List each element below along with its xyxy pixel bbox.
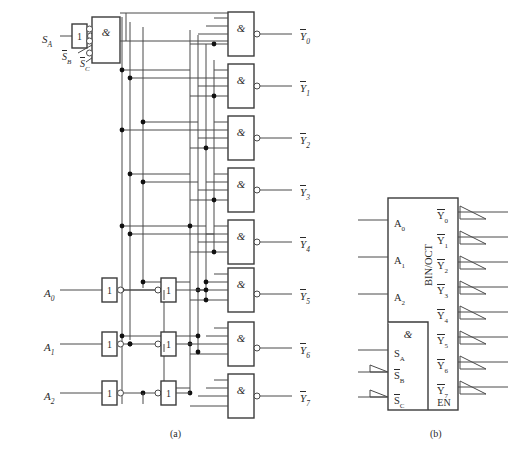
label-sa: SA [42,29,52,49]
inverter-a2-symbol: 1 [166,388,171,399]
label-a2: A2 [44,386,54,406]
nand-gate-3-bubble [254,187,260,193]
block-label-sc-bar: SC [394,390,405,410]
inverter-a1-symbol: 1 [166,339,171,350]
nand-gate-7-bubble [254,393,260,399]
label-sb-bar: SB [62,46,71,66]
nand-gate-5-bubble [254,291,260,297]
inverter-a1-bubble [155,341,161,347]
diagram-a: 1 & [60,12,292,418]
block-label-y5-bar: Y5 [437,330,448,350]
label-sc-bar: SC [80,53,90,73]
nand-gate-7 [228,374,254,418]
buffer-a1-bubble [118,341,124,347]
nand-gate-2-symbol: & [237,126,246,138]
label-y4-bar: Y4 [300,234,310,254]
label-y6-bar: Y6 [300,340,310,360]
label-a1: A1 [44,337,54,357]
inverter-a0-symbol: 1 [166,285,171,296]
label-y5-bar: Y5 [300,286,310,306]
control-nand-bubble-2 [87,38,93,44]
nand-gate-0-symbol: & [237,22,246,34]
label-y7-bar: Y7 [300,388,310,408]
sb-bar-triangle-icon [370,365,388,372]
buffer-a1-symbol: 1 [107,339,112,350]
enable-bus [120,13,228,41]
block-label-sa: SA [394,343,405,363]
label-y2-bar: Y2 [300,130,310,150]
buffer-a0-bubble [118,287,124,293]
nand-gate-6-symbol: & [237,332,246,344]
nand-gate-0 [228,12,254,56]
label-a0: A0 [44,283,54,303]
block-label-y6-bar: Y6 [437,355,448,375]
control-nand-gate [92,17,120,63]
block-label-y4-bar: Y4 [437,305,448,325]
input-inversion-triangles [370,365,388,397]
inverter-a0-bubble [155,287,161,293]
figure-canvas: 1 & [0,0,519,455]
nand-gate-3-symbol: & [237,178,246,190]
nand-gate-5-symbol: & [237,278,246,290]
nand-gate-6-bubble [254,345,260,351]
block-label-y7-bar: Y7 [437,380,448,400]
buffer-a0-symbol: 1 [107,285,112,296]
nand-gate-0-bubble [254,31,260,37]
buffer-a2-bubble [118,390,124,396]
sc-bar-triangle-icon [370,390,388,397]
buffer-sa-symbol: 1 [77,31,82,42]
label-y1-bar: Y1 [300,78,310,98]
control-nand-bubble-1 [87,26,93,32]
label-y0-bar: Y0 [300,26,310,46]
nand-gate-3 [228,168,254,212]
block-label-y2-bar: Y2 [437,255,448,275]
nand-gate-4-symbol: & [237,230,246,242]
bin-oct-label: BIN/OCT [423,243,434,286]
nand-gate-1-bubble [254,83,260,89]
nand-gate-4 [228,220,254,264]
block-output-wires [458,206,508,394]
block-label-y3-bar: Y3 [437,280,448,300]
nand-gate-7-symbol: & [237,384,246,396]
nand-gate-4-bubble [254,239,260,245]
enable-gate-symbol: & [404,328,413,340]
block-label-a2: A2 [394,287,405,307]
caption-b: (b) [430,428,442,439]
nand-gate-2-bubble [254,135,260,141]
block-label-a1: A1 [394,250,405,270]
row-a2: 1 1 [60,381,190,405]
control-nand-symbol: & [102,26,111,38]
nand-gate-1-symbol: & [237,74,246,86]
nand-gate-2 [228,116,254,160]
buffer-a2-symbol: 1 [107,388,112,399]
label-y3-bar: Y3 [300,182,310,202]
nand-gate-6 [228,322,254,366]
block-label-y1-bar: Y1 [437,230,448,250]
nand-gate-5 [228,268,254,312]
diagram-b: BIN/OCT & EN [358,198,508,410]
inverter-a2-bubble [155,390,161,396]
nand-gate-1 [228,64,254,108]
block-label-a0: A0 [394,213,405,233]
nand-gate-column: & & & & [190,12,292,418]
block-label-y0-bar: Y0 [437,205,448,225]
caption-a: (a) [170,428,181,439]
block-label-sb-bar: SB [394,365,405,385]
